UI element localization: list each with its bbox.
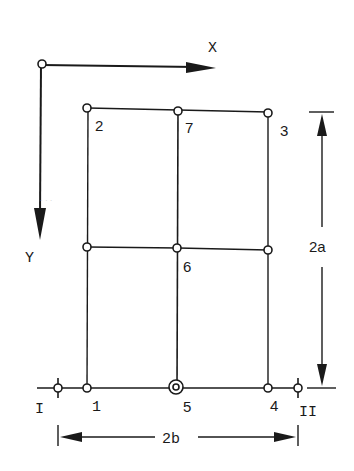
node-5-inner <box>173 384 179 390</box>
node-label-3: 3 <box>280 122 288 139</box>
node-4 <box>264 384 272 392</box>
node-label-2: 2 <box>95 117 103 134</box>
dimension-2b: 2b <box>58 425 298 448</box>
node-unlabeled-right <box>264 246 272 254</box>
y-arrow-icon <box>34 208 46 240</box>
node-1 <box>83 384 91 392</box>
diagram-canvas: X Y · · · 2 7 3 6 1 5 <box>0 0 354 471</box>
support-II <box>294 384 302 392</box>
support-label-I: I <box>35 401 44 418</box>
node-7 <box>174 107 182 115</box>
dim-arrow-left-icon <box>60 432 82 442</box>
dim-arrow-down-icon <box>317 364 327 386</box>
node-labels: 2 7 3 6 1 5 4 <box>92 117 288 416</box>
node-unlabeled-left <box>83 243 91 251</box>
node-label-7: 7 <box>185 119 193 136</box>
node-6 <box>173 244 181 252</box>
dimension-label-2a: 2a <box>309 238 326 255</box>
node-label-6: 6 <box>183 258 191 275</box>
support-I <box>54 384 62 392</box>
node-3 <box>264 109 272 117</box>
dimension-label-2b: 2b <box>162 431 180 448</box>
svg-text:· · ·: · · · <box>40 196 52 205</box>
x-arrow-icon <box>186 62 216 73</box>
grid-lines <box>37 108 336 388</box>
node-2 <box>83 104 91 112</box>
dim-arrow-up-icon <box>317 114 327 136</box>
dimension-2a: 2a <box>309 112 334 386</box>
x-axis-label: X <box>208 40 217 57</box>
support-label-II: II <box>299 404 317 421</box>
origin-node <box>38 60 46 68</box>
coordinate-axes: X Y <box>25 40 217 267</box>
node-label-4: 4 <box>270 397 278 414</box>
dim-arrow-right-icon <box>274 432 296 442</box>
y-axis-label: Y <box>25 250 34 267</box>
node-label-1: 1 <box>92 399 101 416</box>
node-label-5: 5 <box>183 398 191 415</box>
